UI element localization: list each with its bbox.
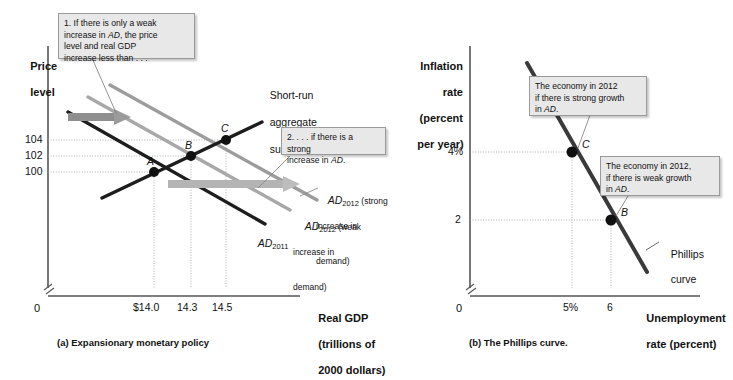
panel-a-point-c-label: C	[221, 122, 229, 134]
callout-economy-weak-growth: The economy in 2012, if there is weak gr…	[600, 156, 720, 196]
panel-a-xtick-14-0: $14.0	[133, 301, 159, 313]
panel-b-ytick-4: 4%	[448, 145, 463, 157]
panel-a-y-axis-title: Price level	[18, 47, 57, 112]
panel-a-xtick-14-3: 14.3	[177, 301, 197, 313]
panel-b-point-c-label: C	[582, 138, 590, 150]
callout-economy-strong-growth: The economy in 2012 if there is strong g…	[529, 76, 647, 116]
panel-a-xtick-14-5: 14.5	[212, 301, 232, 313]
panel-a-origin-label: 0	[34, 302, 40, 315]
panel-b-xtick-5: 5%	[563, 301, 578, 313]
panel-b-xtick-6: 6	[607, 301, 613, 313]
point-b-marker	[186, 151, 196, 161]
ad2012-weak-label: AD2012 (weak increase in demand)	[293, 208, 361, 317]
panel-a-gridlines	[48, 140, 226, 288]
ad2012-weak-note3: demand)	[293, 282, 361, 293]
phillips-curve-label: Phillips curve	[659, 236, 704, 298]
panel-b-caption: (b) The Phillips curve.	[469, 337, 568, 348]
point-a-marker	[149, 167, 159, 177]
point-b-b-marker	[606, 215, 617, 226]
panel-b-ytick-2: 2	[455, 213, 461, 225]
panel-a-caption: (a) Expansionary monetary policy	[57, 337, 209, 348]
panel-a-ytick-104: 104	[25, 133, 43, 145]
callout-strong-increase: 2. . . . if there is a strong increase i…	[281, 127, 386, 155]
panel-a-point-a-label: A	[147, 155, 154, 167]
panel-a-ytick-102: 102	[25, 149, 43, 161]
phillips-label-leader	[646, 242, 659, 250]
panel-b-point-b-label: B	[621, 206, 628, 218]
ad2012-weak-note2: increase in	[293, 247, 361, 258]
callout-weak-increase: 1. If there is only a weak increase in A…	[58, 13, 195, 59]
point-c-b-marker	[567, 147, 578, 158]
panel-a-point-b-label: B	[185, 139, 192, 151]
ad2011-label: AD2011	[246, 225, 288, 263]
panel-b-x-axis-title: Unemployment rate (percent)	[634, 299, 726, 364]
panel-b-origin-label: 0	[456, 302, 462, 315]
weak-shift-arrow	[68, 109, 131, 125]
point-c-marker	[221, 135, 231, 145]
panel-a-ytick-100: 100	[25, 165, 43, 177]
